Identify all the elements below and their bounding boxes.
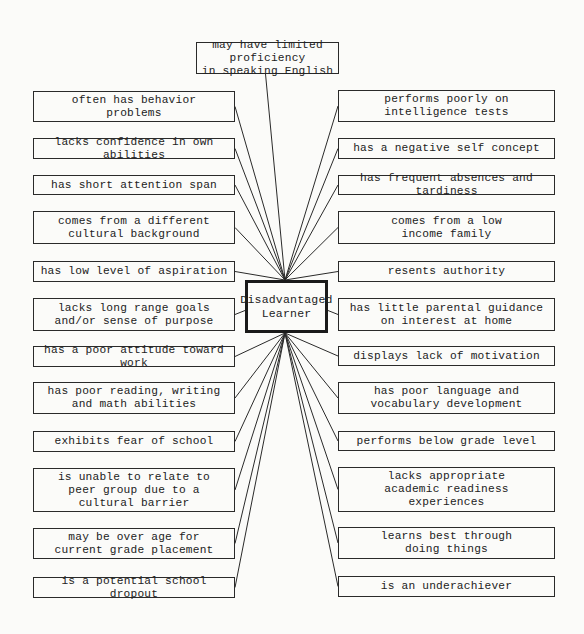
trait-box-right: performs poorly on intelligence tests bbox=[338, 90, 555, 122]
trait-box-right: has poor language and vocabulary develop… bbox=[338, 382, 555, 414]
connector-line-left bbox=[235, 333, 285, 490]
trait-box-left: is a potential school dropout bbox=[33, 577, 235, 598]
trait-box-right: has a negative self concept bbox=[338, 138, 555, 159]
connector-line-left bbox=[235, 333, 285, 357]
trait-box-left: has low level of aspiration bbox=[33, 261, 235, 282]
trait-box-top: may have limited proficiency in speaking… bbox=[196, 42, 339, 74]
connector-line-right bbox=[285, 333, 338, 543]
trait-box-right: resents authority bbox=[338, 261, 555, 282]
trait-box-left: has short attention span bbox=[33, 175, 235, 195]
trait-box-right: learns best through doing things bbox=[338, 527, 555, 559]
trait-box-right: lacks appropriate academic readiness exp… bbox=[338, 467, 555, 512]
trait-box-right: is an underachiever bbox=[338, 576, 555, 597]
trait-box-left: lacks confidence in own abilities bbox=[33, 138, 235, 159]
connector-line-left bbox=[235, 333, 285, 442]
trait-box-left: is unable to relate to peer group due to… bbox=[33, 468, 235, 512]
trait-box-left: has a poor attitude toward work bbox=[33, 346, 235, 367]
connector-line-right bbox=[285, 149, 338, 281]
connector-line-right bbox=[285, 333, 338, 441]
connector-line-left bbox=[235, 149, 285, 281]
trait-box-right: performs below grade level bbox=[338, 431, 555, 451]
trait-box-left: comes from a different cultural backgrou… bbox=[33, 211, 235, 244]
connector-line-left bbox=[235, 333, 285, 588]
trait-box-left: may be over age for current grade placem… bbox=[33, 528, 235, 559]
connector-line-right bbox=[285, 333, 338, 587]
disadvantaged-learner-diagram: may have limited proficiency in speaking… bbox=[0, 0, 584, 634]
trait-box-right: has little parental guidance on interest… bbox=[338, 298, 555, 331]
connector-line-right bbox=[285, 185, 338, 280]
connector-line-right bbox=[285, 333, 338, 490]
trait-box-right: has frequent absences and tardiness bbox=[338, 175, 555, 195]
connector-line-right bbox=[285, 333, 338, 356]
connector-line-left bbox=[235, 333, 285, 544]
center-node-disadvantaged-learner: Disadvantaged Learner bbox=[245, 280, 328, 333]
trait-box-left: lacks long range goals and/or sense of p… bbox=[33, 298, 235, 331]
trait-box-left: often has behavior problems bbox=[33, 91, 235, 122]
trait-box-left: exhibits fear of school bbox=[33, 431, 235, 452]
trait-box-right: displays lack of motivation bbox=[338, 346, 555, 366]
trait-box-left: has poor reading, writing and math abili… bbox=[33, 382, 235, 414]
trait-box-right: comes from a low income family bbox=[338, 211, 555, 244]
